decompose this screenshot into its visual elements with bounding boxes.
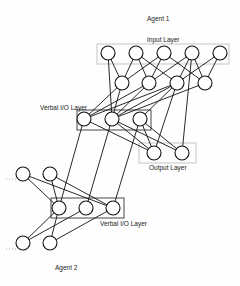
edges-upper-verbal — [23, 174, 113, 208]
verbal-node — [106, 201, 120, 215]
agent-2-label: Agent 2 — [55, 264, 78, 272]
agent-1-label: Agent 1 — [147, 15, 170, 23]
output-node — [175, 146, 189, 160]
input-node — [213, 46, 227, 60]
verbal-node — [105, 112, 119, 126]
upper-node — [43, 167, 57, 181]
neural-network-diagram: Agent 1 Input Layer Verbal I/O Layer Out… — [0, 0, 240, 286]
input-node — [129, 46, 143, 60]
agent-1-group: Agent 1 Input Layer Verbal I/O Layer Out… — [40, 15, 229, 208]
diagram-svg: Agent 1 Input Layer Verbal I/O Layer Out… — [0, 0, 240, 286]
input-node — [101, 46, 115, 60]
agent2-lower-nodes — [16, 236, 57, 250]
agent1-verbal-nodes — [77, 112, 147, 126]
hidden-node — [170, 76, 184, 90]
hidden-node — [142, 76, 156, 90]
verbal-node — [133, 112, 147, 126]
agent2-verbal-nodes — [52, 201, 120, 215]
agent2-verbal-layer-label: Verbal I/O Layer — [100, 220, 148, 228]
input-layer-nodes — [101, 46, 227, 60]
verbal-node — [77, 112, 91, 126]
edges-verbal-output — [84, 119, 182, 153]
lower-node — [16, 236, 30, 250]
output-layer-label: Output Layer — [149, 164, 187, 172]
agent-2-group: Verbal I/O Layer Agent 2 — [6, 167, 148, 272]
verbal-node — [79, 201, 93, 215]
output-node — [147, 146, 161, 160]
input-node — [185, 46, 199, 60]
hidden-node — [198, 76, 212, 90]
hidden-node — [115, 76, 129, 90]
output-layer-nodes — [147, 146, 189, 160]
agent1-verbal-layer-label: Verbal I/O Layer — [40, 104, 88, 112]
input-layer-label: Input Layer — [147, 36, 180, 44]
input-node — [157, 46, 171, 60]
lower-node — [43, 236, 57, 250]
upper-node — [16, 167, 30, 181]
verbal-node — [52, 201, 66, 215]
